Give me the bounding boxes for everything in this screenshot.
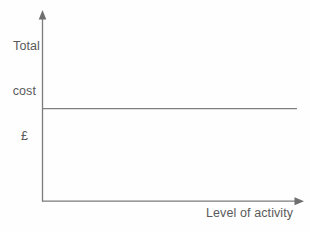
y-axis-label-line-1: Total bbox=[0, 39, 41, 54]
x-axis-arrow-icon bbox=[295, 197, 305, 205]
chart-figure: Total cost £ Level of activity bbox=[0, 0, 310, 232]
y-axis-label-line-2: cost bbox=[0, 84, 41, 99]
chart-plot-area bbox=[0, 0, 310, 232]
y-axis-label-line-3: £ bbox=[0, 129, 41, 144]
x-axis-label: Level of activity bbox=[206, 206, 293, 221]
y-axis-label: Total cost £ bbox=[0, 9, 41, 174]
